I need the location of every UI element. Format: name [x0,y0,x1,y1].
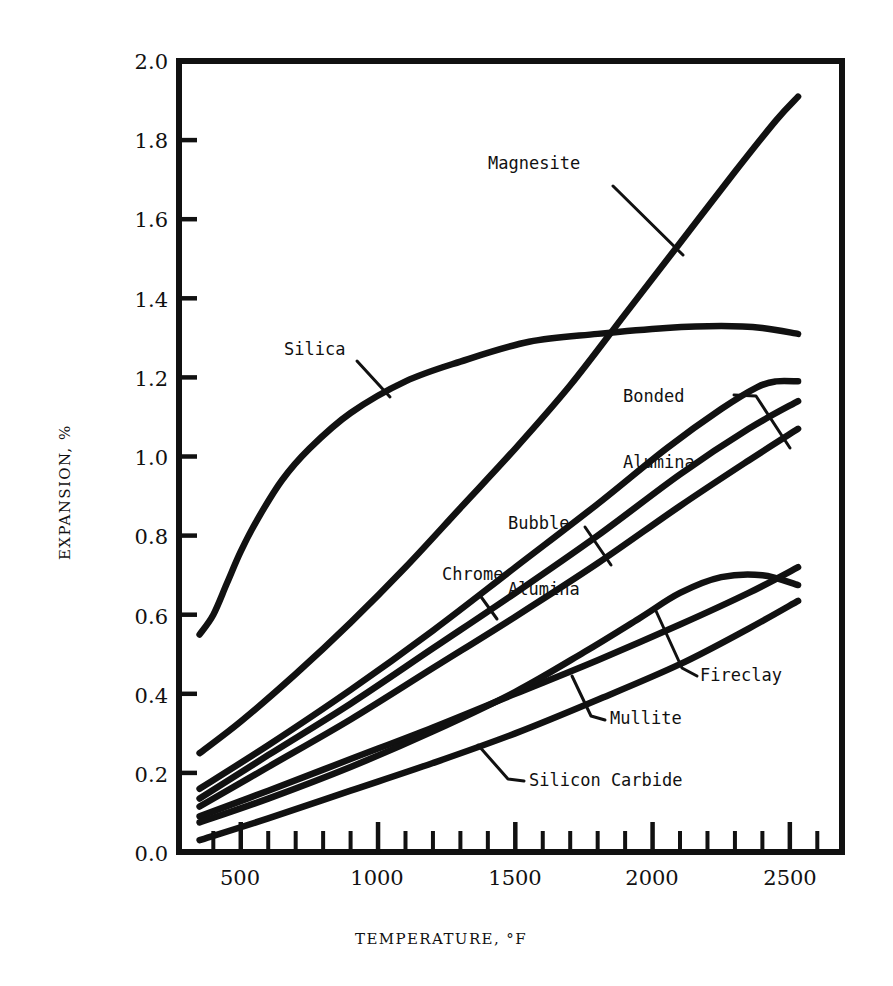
x-tick-label-1000: 1000 [337,866,417,890]
magnesite-leader [613,186,683,255]
bonded-alumina-label-line1: Bonded [623,385,695,407]
bonded-alumina-label: Bonded Alumina [623,341,695,517]
y-axis-title: EXPANSION, % [56,424,74,560]
curve-chrome [200,429,798,807]
y-tick-label-0.0: 0.0 [104,842,168,866]
y-tick-label-0.6: 0.6 [104,605,168,629]
thermal-expansion-figure: 2.0 1.8 1.6 1.4 1.2 1.0 0.8 0.6 0.4 0.2 … [0,0,893,986]
y-tick-label-2.0: 2.0 [104,50,168,74]
curve-silicon-carbide [200,601,798,840]
silica-leader [357,361,390,397]
x-tick-label-2500: 2500 [750,866,830,890]
bubble-alumina-label-line2: Alumina [508,578,580,600]
data-curves [200,97,798,841]
bubble-alumina-label: Bubble Alumina [508,468,580,644]
x-axis-title: TEMPERATURE, °F [355,930,527,948]
y-tick-label-0.8: 0.8 [104,525,168,549]
mullite-label: Mullite [610,707,682,729]
curve-magnesite [200,97,798,754]
silicon-carbide-label: Silicon Carbide [529,769,683,791]
chrome-label: Chrome [442,563,503,585]
silica-label: Silica [284,338,345,360]
y-tick-label-0.4: 0.4 [104,684,168,708]
x-tick-label-500: 500 [200,866,280,890]
y-tick-label-1.4: 1.4 [104,288,168,312]
y-tick-label-1.2: 1.2 [104,367,168,391]
fireclay-label: Fireclay [700,664,782,686]
x-tick-label-2000: 2000 [612,866,692,890]
bubble-alumina-label-line1: Bubble [508,512,580,534]
silicon-carbide-leader [478,745,524,781]
y-tick-label-1.0: 1.0 [104,446,168,470]
y-tick-label-1.6: 1.6 [104,208,168,232]
magnesite-label: Magnesite [488,152,580,174]
curve-silica [200,326,798,634]
y-tick-label-1.8: 1.8 [104,129,168,153]
bonded-alumina-label-line2: Alumina [623,451,695,473]
y-tick-label-0.2: 0.2 [104,763,168,787]
x-tick-label-1500: 1500 [475,866,555,890]
